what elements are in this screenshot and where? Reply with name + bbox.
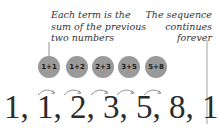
fibonacci-sequence: 1, 1, 2, 3, 5, 8, 13 ... (4, 89, 218, 126)
sum-bubble-1: 1+1 (38, 56, 60, 78)
sum-bubble-2: 1+2 (66, 56, 88, 78)
sum-bubble-4: 3+5 (118, 56, 140, 78)
sum-bubble-5: 5+8 (145, 56, 167, 78)
sum-bubble-3: 2+3 (92, 56, 114, 78)
